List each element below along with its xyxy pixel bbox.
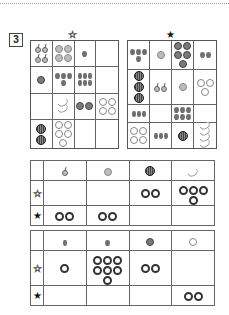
strawberry-icon	[136, 56, 141, 62]
persimmon-icon	[64, 54, 72, 62]
column-header-apple	[172, 231, 215, 251]
tally-cell[interactable]	[44, 286, 87, 306]
cherry-icon	[161, 86, 167, 92]
strawberry-icon	[186, 114, 191, 120]
grape-icon	[154, 133, 158, 139]
apple-icon	[99, 107, 107, 115]
ring-mark	[113, 266, 122, 275]
tomato-icon	[146, 238, 154, 246]
apple-icon	[64, 121, 72, 129]
tomato-icon	[76, 102, 84, 110]
cherry-icon	[42, 47, 48, 53]
grape-icon	[88, 80, 92, 86]
ring-mark	[151, 264, 160, 273]
white-star-icon: ☆	[33, 188, 42, 199]
tally-cell[interactable]	[129, 181, 172, 206]
tally-cell[interactable]	[44, 206, 87, 226]
apple-icon	[108, 107, 116, 115]
tally-cell[interactable]	[86, 181, 129, 206]
ring-mark	[55, 212, 64, 221]
grid-cell	[128, 70, 150, 105]
persimmon-icon	[157, 51, 165, 59]
column-header-strawberry	[86, 231, 129, 251]
grid-cell	[53, 41, 75, 67]
corner-cell	[31, 231, 44, 251]
tally-cell[interactable]	[172, 286, 215, 306]
question-number: 3	[9, 33, 23, 47]
tally-cell[interactable]	[86, 206, 129, 226]
grape-icon	[159, 133, 163, 139]
row-label: ★	[31, 206, 44, 226]
grid-cell	[53, 67, 75, 93]
ring-mark	[108, 212, 117, 221]
tally-cell[interactable]	[86, 286, 129, 306]
tally-cell[interactable]	[129, 206, 172, 226]
tally-cell[interactable]	[172, 181, 215, 206]
strawberry-icon	[174, 114, 179, 120]
strawberry-icon	[180, 107, 185, 113]
grape-icon	[78, 80, 82, 86]
grid-cell	[128, 41, 150, 70]
grid-cell	[150, 105, 172, 123]
cherry-icon	[62, 170, 68, 176]
persimmon-icon	[55, 54, 63, 62]
strawberry-icon	[61, 73, 66, 79]
black-star-icon: ★	[33, 210, 42, 221]
grid-cell	[96, 120, 118, 148]
watermelon-icon	[178, 131, 188, 141]
cherry-icon	[154, 86, 160, 92]
watermelon-icon	[36, 124, 46, 134]
grid-cell	[194, 41, 216, 70]
row-label: ★	[31, 286, 44, 306]
watermelon-icon	[145, 166, 155, 176]
column-header-cherry	[44, 161, 87, 181]
white-star-icon: ☆	[68, 30, 77, 40]
column-header-watermelon	[129, 161, 172, 181]
cherry-icon	[35, 57, 41, 63]
apple-icon	[189, 238, 197, 246]
ring-mark	[103, 266, 112, 275]
strawberry-icon	[174, 107, 179, 113]
tally-table-1: ☆★	[30, 160, 215, 226]
black-star-icon: ★	[166, 30, 175, 40]
grid-cell	[194, 105, 216, 123]
ring-mark	[189, 186, 198, 195]
tally-cell[interactable]	[172, 251, 215, 286]
grid-cell	[96, 41, 118, 67]
grid-cell	[194, 70, 216, 105]
tomato-icon	[179, 60, 187, 68]
grape-icon	[63, 240, 67, 246]
watermelon-icon	[134, 93, 144, 103]
grape-icon	[142, 111, 146, 117]
grid-cell	[150, 70, 172, 105]
corner-cell	[31, 161, 44, 181]
apple-icon	[206, 79, 214, 87]
tally-cell[interactable]	[44, 181, 87, 206]
grid-cell	[31, 41, 53, 67]
tally-cell[interactable]	[44, 251, 87, 286]
grid-cell	[172, 41, 194, 70]
ring-mark	[93, 266, 102, 275]
apple-icon	[108, 98, 116, 106]
tally-cell[interactable]	[86, 251, 129, 286]
apple-icon	[139, 136, 147, 144]
row-label: ☆	[31, 181, 44, 206]
tally-cell[interactable]	[129, 286, 172, 306]
grid-cell	[31, 94, 53, 120]
tomato-icon	[37, 76, 45, 84]
tomato-icon	[183, 51, 191, 59]
ring-mark	[179, 186, 188, 195]
tomato-icon	[183, 42, 191, 50]
ring-mark	[103, 256, 112, 265]
apple-icon	[55, 121, 63, 129]
strawberry-icon	[82, 51, 87, 57]
strawberry-icon	[67, 73, 72, 79]
ring-mark	[103, 276, 112, 285]
ring-mark	[65, 212, 74, 221]
persimmon-icon	[104, 168, 112, 176]
tally-cell[interactable]	[172, 206, 215, 226]
tally-cell[interactable]	[129, 251, 172, 286]
ring-mark	[184, 292, 193, 301]
apple-icon	[130, 136, 138, 144]
strawberry-icon	[142, 49, 147, 55]
